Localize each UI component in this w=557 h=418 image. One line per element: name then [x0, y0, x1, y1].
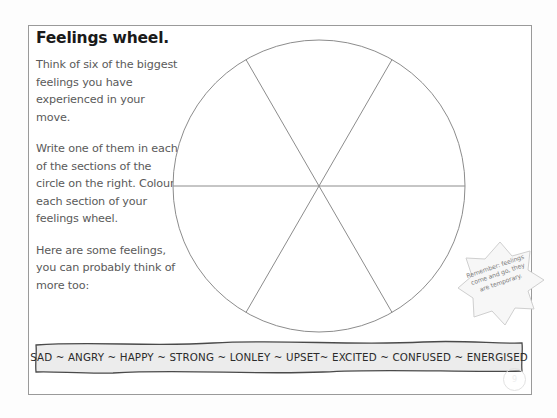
feelings-wheel[interactable]	[170, 37, 468, 335]
page-title: Feelings wheel.	[36, 30, 181, 47]
instruction-paragraph-2: Write one of them in each of the section…	[36, 140, 181, 228]
feelings-wheel-svg[interactable]	[170, 37, 468, 335]
instruction-paragraph-3: Here are some feelings, you can probably…	[36, 242, 181, 295]
instruction-paragraph-1: Think of six of the biggest feelings you…	[36, 56, 181, 126]
reminder-starburst: Remember: feelings come and go, they are…	[456, 238, 546, 330]
word-bank-text: SAD ~ ANGRY ~ HAPPY ~ STRONG ~ LONLEY ~ …	[33, 340, 525, 374]
instructions-column: Feelings wheel. Think of six of the bigg…	[36, 30, 181, 294]
page-number-badge: 9	[503, 368, 526, 391]
worksheet-page: Feelings wheel. Think of six of the bigg…	[0, 0, 557, 418]
word-bank-box: SAD ~ ANGRY ~ HAPPY ~ STRONG ~ LONLEY ~ …	[33, 340, 525, 374]
